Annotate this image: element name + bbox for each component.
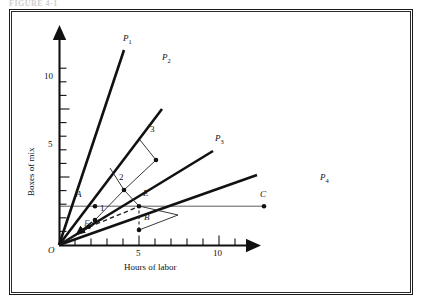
data-point-markers (87, 158, 266, 233)
point-B (137, 228, 142, 233)
point-C (262, 204, 267, 209)
ray-label-p3: P3 (215, 133, 224, 145)
ray-label-p1: P1 (123, 33, 132, 45)
point-label-1: 1 (100, 203, 105, 213)
y-axis-label: Boxes of mix (26, 148, 36, 197)
y-tick-label-10: 10 (44, 71, 53, 81)
x-tick-label-10: 10 (213, 248, 222, 258)
ray-p2 (59, 109, 162, 245)
point-3 (154, 158, 159, 163)
dashed-guides (89, 207, 139, 228)
ray-label-p2-sub: 2 (168, 57, 171, 64)
point-label-3: 3 (150, 124, 155, 134)
point-label-E: E (143, 188, 149, 198)
isoquant-upper-3 (140, 140, 156, 160)
y-tick-label-5: 5 (48, 139, 53, 149)
point-2 (122, 188, 127, 193)
ray-label-p2: P2 (162, 52, 171, 64)
x-axis-label: Hours of labor (124, 262, 177, 272)
production-rays (59, 50, 257, 245)
origin-label: O (48, 245, 55, 255)
point-label-2: 2 (119, 172, 124, 182)
x-tick-label-5: 5 (136, 248, 141, 258)
dashed-F-E (89, 207, 139, 228)
ray-label-p4: P4 (320, 172, 329, 184)
ray-label-p3-sub: 3 (221, 138, 224, 145)
point-A (93, 204, 98, 209)
ray-label-p1-sub: 1 (129, 38, 132, 45)
y-axis-ticks (60, 68, 70, 231)
x-axis-ticks (75, 236, 235, 246)
point-label-B: B (144, 212, 150, 222)
point-label-A: A (76, 189, 82, 199)
point-1 (93, 218, 98, 223)
point-E (137, 204, 142, 209)
ray-p1 (59, 50, 124, 245)
point-label-C: C (260, 189, 266, 199)
point-label-F: F (84, 218, 90, 228)
ray-label-p4-sub: 4 (326, 177, 329, 184)
isoquant-2-3 (124, 160, 156, 190)
chart-plot-area (0, 0, 424, 306)
